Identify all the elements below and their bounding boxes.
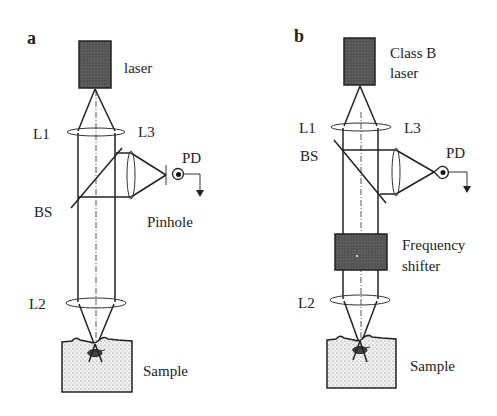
signal-output-arrow [184, 174, 204, 197]
lens-l2-label: L2 [29, 296, 46, 312]
beam-splitter-label: BS [34, 204, 52, 220]
lens-l3 [127, 151, 135, 199]
lens-l3 [392, 148, 400, 196]
lens-l3-label: L3 [404, 120, 421, 136]
photodetector-label: PD [446, 145, 465, 161]
signal-output-arrow [449, 172, 471, 193]
frequency-shifter-label-line1: Frequency [402, 237, 466, 253]
beam-splitter-label: BS [300, 148, 318, 164]
photodetector [173, 169, 184, 180]
frequency-shifter-label-line2: shifter [402, 258, 440, 274]
lens-l2-label: L2 [298, 295, 315, 311]
panel-a-label: a [27, 28, 36, 48]
shifter-center-dot [356, 255, 358, 257]
lens-l2 [330, 295, 390, 305]
reflected-beam [343, 150, 434, 194]
photodetector-label: PD [182, 150, 201, 166]
panel-b: b Class B laser L1 BS [294, 26, 471, 388]
pinhole-label: Pinhole [147, 214, 193, 230]
sample-label: Sample [410, 358, 455, 374]
lens-l1-label: L1 [33, 126, 50, 142]
panel-a: a laser L1 BS L3 [27, 28, 204, 392]
lens-l3-label: L3 [138, 124, 155, 140]
laser-label-line1: Class B [390, 45, 436, 61]
panel-b-label: b [294, 26, 304, 46]
reflected-beam [78, 153, 166, 197]
optical-setup-diagram: a laser L1 BS L3 [0, 0, 497, 416]
photodetector [434, 166, 448, 178]
sample [62, 337, 132, 392]
laser-source [79, 41, 111, 88]
frequency-shifter [335, 234, 387, 270]
laser-label: laser [124, 60, 152, 76]
class-b-laser-source [344, 38, 375, 85]
laser-label-line2: laser [390, 65, 418, 81]
sample-label: Sample [143, 363, 188, 379]
lens-l1-label: L1 [299, 120, 316, 136]
